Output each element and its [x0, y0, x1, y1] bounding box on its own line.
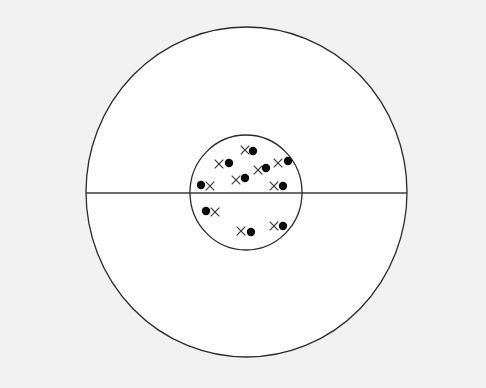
- dot-marker-icon: [249, 147, 257, 155]
- dot-marker-icon: [279, 222, 287, 230]
- dot-marker-icon: [197, 181, 205, 189]
- dot-marker-icon: [247, 228, 255, 236]
- target-diagram: [0, 0, 486, 388]
- dot-marker-icon: [225, 159, 233, 167]
- dot-marker-icon: [202, 207, 210, 215]
- dot-marker-icon: [241, 174, 249, 182]
- dot-marker-icon: [279, 182, 287, 190]
- diagram-canvas: [0, 0, 486, 388]
- dot-marker-icon: [262, 164, 270, 172]
- dot-marker-icon: [284, 157, 292, 165]
